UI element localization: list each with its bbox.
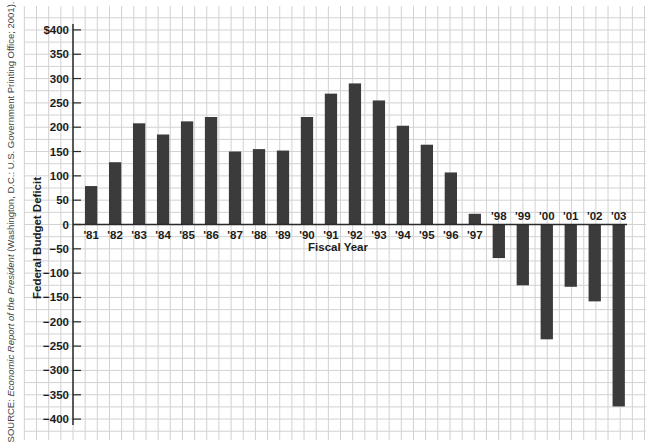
bar-86 xyxy=(205,117,217,225)
y-tick-label: $400 xyxy=(43,24,69,36)
y-tick-label: −100 xyxy=(43,267,69,279)
bar-99 xyxy=(517,225,529,286)
source-suffix: (Washington, D.C.: U.S. Government Print… xyxy=(5,2,16,255)
x-category-label: '86 xyxy=(203,229,219,241)
x-category-label: '84 xyxy=(155,229,171,241)
source-prefix: SOURCE: xyxy=(5,397,16,443)
x-category-label: '83 xyxy=(131,229,147,241)
bar-95 xyxy=(421,145,433,225)
y-tick-label: −400 xyxy=(43,413,69,425)
bar-02 xyxy=(589,225,601,302)
bar-81 xyxy=(85,186,97,224)
y-tick-label: 150 xyxy=(50,146,69,158)
y-tick-label: −350 xyxy=(43,389,69,401)
x-category-label: '90 xyxy=(299,229,315,241)
bar-83 xyxy=(133,123,145,224)
bar-03 xyxy=(613,225,625,407)
y-tick-label: −300 xyxy=(43,364,69,376)
x-category-label: '81 xyxy=(83,229,99,241)
x-category-label: '85 xyxy=(179,229,195,241)
budget-deficit-chart: $400350300250200150100500−50−100−150−200… xyxy=(0,0,649,443)
x-category-label: '91 xyxy=(323,229,339,241)
bar-85 xyxy=(181,121,193,224)
x-category-label: '00 xyxy=(539,210,555,222)
y-tick-label: 50 xyxy=(56,194,69,206)
bar-97 xyxy=(469,214,481,225)
source-note: SOURCE: Economic Report of the President… xyxy=(5,2,16,443)
bar-96 xyxy=(445,172,457,224)
x-category-label: '87 xyxy=(227,229,243,241)
x-category-label: '88 xyxy=(251,229,267,241)
y-tick-label: −200 xyxy=(43,316,69,328)
y-tick-label: 0 xyxy=(63,219,69,231)
bar-84 xyxy=(157,134,169,224)
y-tick-label: −50 xyxy=(49,243,69,255)
bar-91 xyxy=(325,94,337,225)
y-tick-label: 100 xyxy=(50,170,69,182)
bar-00 xyxy=(541,225,553,340)
x-category-label: '03 xyxy=(611,210,627,222)
source-title: Economic Report of the President xyxy=(5,254,16,396)
bar-88 xyxy=(253,149,265,224)
y-axis-title: Federal Budget Deficit xyxy=(31,177,43,299)
bar-01 xyxy=(565,225,577,287)
x-category-label: '95 xyxy=(419,229,435,241)
bar-89 xyxy=(277,151,289,225)
bar-92 xyxy=(349,83,361,224)
x-category-label: '96 xyxy=(443,229,459,241)
x-category-label: '94 xyxy=(395,229,411,241)
y-tick-label: −250 xyxy=(43,340,69,352)
x-category-label: '98 xyxy=(491,210,507,222)
bar-94 xyxy=(397,126,409,225)
x-category-label: '89 xyxy=(275,229,291,241)
y-tick-label: 200 xyxy=(50,121,69,133)
y-tick-label: 350 xyxy=(50,48,69,60)
x-category-label: '01 xyxy=(563,210,579,222)
x-category-label: '92 xyxy=(347,229,363,241)
y-tick-label: −150 xyxy=(43,291,69,303)
x-category-label: '97 xyxy=(467,229,483,241)
y-tick-label: 250 xyxy=(50,97,69,109)
bar-90 xyxy=(301,117,313,225)
x-axis-title: Fiscal Year xyxy=(308,241,368,253)
bar-93 xyxy=(373,100,385,224)
x-category-label: '02 xyxy=(587,210,603,222)
x-category-label: '93 xyxy=(371,229,387,241)
y-tick-label: 300 xyxy=(50,73,69,85)
x-category-label: '82 xyxy=(107,229,123,241)
bar-87 xyxy=(229,152,241,225)
x-category-label: '99 xyxy=(515,210,531,222)
bar-98 xyxy=(493,225,505,259)
bar-82 xyxy=(109,162,121,224)
